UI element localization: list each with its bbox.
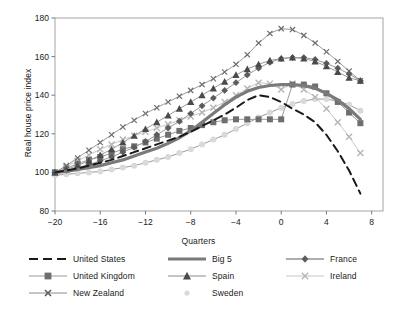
data-point-marker [176,128,182,134]
legend-item-ireland[interactable]: Ireland [284,267,397,284]
x-tick-label: −20 [48,217,63,227]
dot-marker-key [166,287,208,299]
data-point-marker [120,165,126,171]
data-point-marker [154,105,159,110]
data-point-marker [187,98,194,105]
data-point-marker [132,118,137,123]
triangle-marker-key [166,270,208,282]
data-point-marker [278,105,284,111]
x-tick-label: −4 [231,217,241,227]
data-point-marker [233,79,240,86]
data-point-marker [142,160,148,166]
x-marker-key [27,287,69,299]
legend-label: Big 5 [212,254,232,264]
x-tick-label: −8 [186,217,196,227]
legend-item-sweden[interactable]: Sweden [166,284,284,301]
chart-legend: United States Big 5 France United Kingdo… [27,250,397,301]
x-tick-label: 4 [324,217,329,227]
legend-label: United States [73,254,125,264]
legend-item-france[interactable]: France [284,250,397,267]
chart-figure: −20−16−12−8−404880100120140160180 Real h… [0,0,397,313]
data-point-marker [166,99,171,104]
data-point-marker [313,40,318,45]
diamond-marker-key [284,253,326,265]
data-point-marker [256,40,261,45]
data-point-marker [335,119,341,125]
data-point-marker [199,102,206,109]
x-tick-label: 8 [369,217,374,227]
data-point-marker [222,69,227,74]
data-point-marker [232,71,239,78]
data-point-marker [165,132,171,138]
y-tick-label: 160 [35,52,49,62]
x-tick-label: 0 [279,217,284,227]
data-point-marker [256,116,262,122]
data-point-marker [244,72,251,79]
data-point-marker [211,76,216,81]
data-point-marker [75,155,80,160]
data-point-marker [233,126,239,132]
data-point-marker [109,132,114,137]
data-point-marker [199,110,205,116]
data-point-marker [188,146,194,152]
y-tick-label: 80 [40,206,50,216]
data-point-marker [165,112,172,119]
dashed-line-key [27,253,69,265]
data-point-marker [120,124,125,129]
y-axis-title: Real house price index [23,38,33,188]
legend-item-new-zealand[interactable]: New Zealand [27,284,166,301]
data-point-marker [357,120,363,126]
data-point-marker [323,106,329,112]
data-point-marker [357,150,363,156]
data-point-marker [153,119,160,126]
data-point-marker [290,101,296,107]
data-point-marker [198,92,205,99]
data-point-marker [154,125,160,131]
data-point-marker [357,108,363,114]
data-point-marker [222,117,228,123]
data-point-marker [97,146,103,152]
data-point-marker [154,157,160,163]
x-light-marker-key [284,270,326,282]
data-point-marker [233,116,239,122]
data-point-marker [143,111,148,116]
data-point-marker [221,87,228,94]
data-point-marker [255,61,262,68]
data-point-marker [210,105,216,111]
series-spain [51,54,364,175]
square-marker-key [27,270,69,282]
data-point-marker [210,85,217,92]
legend-item-spain[interactable]: Spain [166,267,284,284]
y-tick-label: 100 [35,167,49,177]
legend-item-united-kingdom[interactable]: United Kingdom [27,267,166,284]
data-point-marker [131,163,137,169]
data-point-marker [244,116,250,122]
data-point-marker [301,98,307,104]
data-point-marker [176,150,182,156]
data-point-marker [301,33,306,38]
legend-label: Ireland [330,271,357,281]
data-point-marker [222,132,228,138]
data-point-marker [335,59,340,64]
data-point-marker [221,78,228,85]
legend-item-united-states[interactable]: United States [27,250,166,267]
legend-label: Spain [212,271,234,281]
data-point-marker [188,88,193,93]
legend-label: France [330,254,357,264]
legend-item-big-5[interactable]: Big 5 [166,250,284,267]
y-tick-label: 120 [35,129,49,139]
y-tick-label: 140 [35,90,49,100]
data-point-marker [177,94,182,99]
legend-label: New Zealand [73,288,124,298]
data-point-marker [324,49,329,54]
data-point-marker [97,168,103,174]
data-point-marker [267,116,273,122]
data-point-marker [278,116,284,122]
data-point-marker [245,52,250,57]
data-point-marker [165,154,171,160]
data-point-marker [267,110,273,116]
legend-label: United Kingdom [73,271,135,281]
x-axis-title: Quarters [0,236,397,246]
x-tick-label: −16 [93,217,108,227]
data-point-marker [199,141,205,147]
